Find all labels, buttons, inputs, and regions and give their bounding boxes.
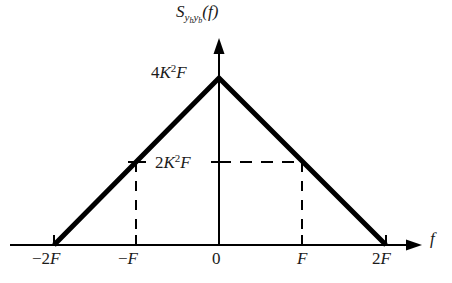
x-tick-label-minus-F: −F bbox=[118, 250, 138, 267]
x-tick-minus-2F-sign: − bbox=[32, 249, 42, 268]
x-tick-2F-value: 2 bbox=[372, 249, 381, 268]
x-tick-minus-F-sign: − bbox=[118, 249, 128, 268]
y-axis-label-argument: (f) bbox=[202, 2, 218, 21]
y-axis-label-symbol: S bbox=[176, 2, 185, 21]
x-tick-2F-unit: F bbox=[381, 249, 391, 268]
peak-unit: F bbox=[176, 63, 186, 82]
x-tick-label-F: F bbox=[297, 250, 307, 267]
x-axis-arrowhead bbox=[406, 240, 422, 251]
mid-coefficient: 2 bbox=[155, 153, 164, 172]
mid-symbol: K bbox=[164, 153, 175, 172]
x-axis-label: f bbox=[430, 230, 435, 247]
plot-canvas bbox=[0, 0, 452, 283]
x-tick-zero-value: 0 bbox=[212, 249, 221, 268]
peak-symbol: K bbox=[160, 63, 171, 82]
x-tick-minus-F-unit: F bbox=[128, 249, 138, 268]
y-axis bbox=[214, 38, 225, 245]
x-tick-label-minus-2F: −2F bbox=[32, 250, 60, 267]
x-tick-F-unit: F bbox=[297, 249, 307, 268]
x-tick-minus-2F-value: 2 bbox=[42, 249, 51, 268]
y-value-label-peak: 4K2F bbox=[151, 63, 187, 81]
y-axis-arrowhead bbox=[214, 38, 225, 54]
construction-lines bbox=[128, 162, 302, 243]
x-tick-label-zero: 0 bbox=[212, 250, 221, 267]
x-tick-minus-2F-unit: F bbox=[50, 249, 60, 268]
y-axis-label: Sybyb(f) bbox=[176, 3, 218, 25]
x-axis-ticks bbox=[54, 235, 386, 245]
peak-coefficient: 4 bbox=[151, 63, 160, 82]
x-tick-label-2F: 2F bbox=[372, 250, 391, 267]
mid-unit: F bbox=[180, 153, 190, 172]
y-value-label-mid: 2K2F bbox=[155, 153, 191, 171]
psd-triangle-figure: Sybyb(f) 4K2F 2K2F −2F −F 0 F 2F f bbox=[0, 0, 452, 283]
